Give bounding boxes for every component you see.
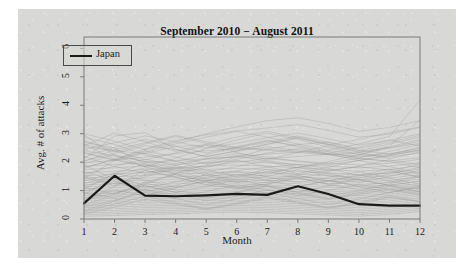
y-tick-label: 4 <box>60 97 71 111</box>
figure-canvas: September 2010 − August 2011 0123456 123… <box>18 9 456 258</box>
y-tick-label: 0 <box>60 211 71 225</box>
background-series-group <box>84 100 420 216</box>
y-tick-label: 3 <box>60 125 71 139</box>
background-series-line <box>84 161 420 170</box>
chart-legend: Japan <box>63 45 132 66</box>
y-tick-label: 1 <box>60 182 71 196</box>
y-axis-label: Avg. # of attacks <box>34 83 46 183</box>
legend-line-swatch <box>70 55 92 57</box>
x-axis-label: Month <box>18 234 456 246</box>
background-series-line <box>84 181 420 186</box>
y-tick-label: 5 <box>60 68 71 82</box>
y-tick-label: 2 <box>60 154 71 168</box>
legend-entry-label: Japan <box>96 48 120 59</box>
